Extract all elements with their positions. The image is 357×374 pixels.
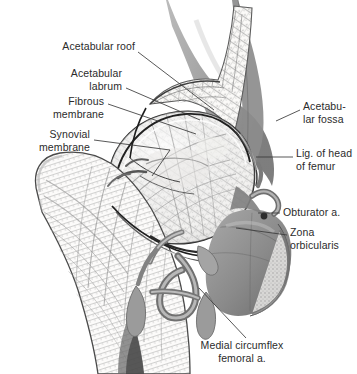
label-obturator-artery: Obturator a. (283, 206, 340, 219)
label-lig-head-of-femur: Lig. of head of femur (296, 147, 352, 172)
label-fibrous-membrane: Fibrous membrane (53, 95, 104, 120)
hip-joint-figure: Acetabular roof Acetabular labrum Fibrou… (0, 0, 357, 374)
label-acetabular-fossa: Acetabu- lar fossa (303, 100, 346, 125)
label-medial-circumflex-femoral-artery: Medial circumflex femoral a. (168, 339, 316, 364)
label-acetabular-roof: Acetabular roof (62, 40, 135, 53)
anatomical-illustration (0, 0, 357, 374)
label-acetabular-labrum: Acetabular labrum (71, 67, 122, 92)
label-zona-orbicularis: Zona orbicularis (290, 226, 339, 251)
label-synovial-membrane: Synovial membrane (39, 128, 90, 153)
